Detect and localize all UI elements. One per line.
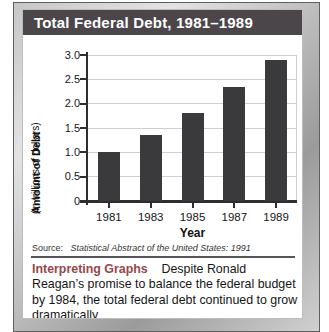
metal-frame: Total Federal Debt, 1981–1989 Amount of … xyxy=(13,2,320,332)
y-axis-tick-label: 3.0 xyxy=(51,49,80,61)
bar-1985 xyxy=(182,113,204,201)
source-citation: Statistical Abstract of the United State… xyxy=(71,243,251,253)
x-axis-tick-label: 1987 xyxy=(212,211,256,223)
y-axis-tick-label: 0 xyxy=(51,195,80,207)
y-axis-tick-label: 1.5 xyxy=(51,122,80,134)
chart-title: Total Federal Debt, 1981–1989 xyxy=(23,10,302,35)
source-prefix: Source: xyxy=(32,243,63,253)
bar-1987 xyxy=(223,87,245,201)
y-axis-tick-label: 1.0 xyxy=(51,146,80,158)
x-axis-tick xyxy=(192,203,194,208)
x-axis-tick xyxy=(150,203,152,208)
bar-chart: Amount of Debt (in trillions of dollars)… xyxy=(23,35,302,242)
x-axis-title: Year xyxy=(153,226,233,240)
x-axis-tick xyxy=(233,203,235,208)
bar-1989 xyxy=(265,60,287,201)
source-line: Source: Statistical Abstract of the Unit… xyxy=(32,243,251,253)
y-axis-tick-label: 2.0 xyxy=(51,97,80,109)
gridline xyxy=(88,55,297,56)
x-axis-tick-label: 1985 xyxy=(171,211,215,223)
y-axis-tick-label: 2.5 xyxy=(51,73,80,85)
interpreting-note: Interpreting Graphs Despite Ronald Reaga… xyxy=(32,262,298,319)
bar-1983 xyxy=(140,135,162,201)
plot-right-border xyxy=(296,55,297,201)
x-axis-tick-label: 1983 xyxy=(129,211,173,223)
y-axis-title-sub: (in trillions of dollars) xyxy=(30,122,41,214)
note-heading: Interpreting Graphs xyxy=(32,262,148,276)
x-axis-tick xyxy=(275,203,277,208)
chart-card: Total Federal Debt, 1981–1989 Amount of … xyxy=(22,9,303,319)
x-axis-tick xyxy=(108,203,110,208)
y-axis-line xyxy=(86,52,89,205)
x-axis-tick-label: 1981 xyxy=(87,211,131,223)
y-axis-tick-label: 0.5 xyxy=(51,170,80,182)
divider-rule xyxy=(31,256,295,258)
bar-1981 xyxy=(98,152,120,201)
x-axis-tick-label: 1989 xyxy=(254,211,298,223)
